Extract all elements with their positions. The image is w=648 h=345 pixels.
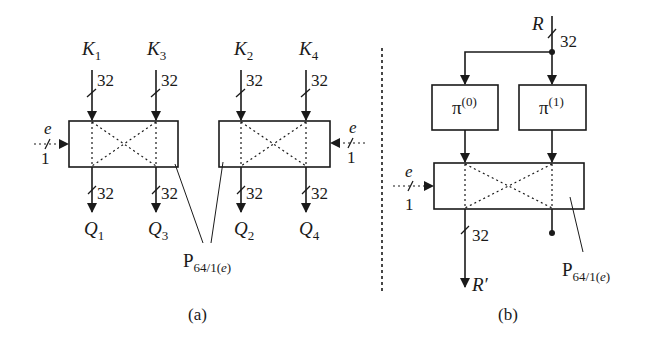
- bus-width-label: 32: [246, 184, 263, 203]
- output-label-q4: Q4: [299, 218, 320, 243]
- block-label-p64: P64/1(e): [562, 259, 610, 284]
- leader-line: [175, 164, 203, 243]
- output-label-q3: Q3: [148, 218, 168, 243]
- control-label-e: e: [405, 162, 413, 181]
- bus-width-label: 32: [560, 32, 577, 51]
- bus-width-label: 32: [472, 226, 489, 245]
- crossover-dotted-lines: [465, 164, 552, 208]
- permutation-block-right: K2 K4 32 32 e 1 32: [219, 38, 365, 243]
- bus-width-label: 32: [97, 184, 114, 203]
- bus-width-label: 32: [97, 71, 114, 90]
- perm-label-pi0: π(0): [452, 94, 477, 118]
- bus-width-label: 32: [311, 71, 328, 90]
- caption-b: (b): [498, 305, 518, 324]
- input-label-k4: K4: [298, 38, 319, 63]
- control-width-label: 1: [41, 149, 50, 168]
- input-label-k3: K3: [146, 38, 166, 63]
- control-width-label: 1: [405, 195, 414, 214]
- input-label-k1: K1: [81, 38, 101, 63]
- control-width-label: 1: [347, 148, 356, 167]
- panel-a: K1 K3 32 32 e 1 32: [34, 38, 365, 324]
- perm-label-pi1: π(1): [539, 94, 564, 118]
- bus-width-label: 32: [311, 184, 328, 203]
- diagram-canvas: K1 K3 32 32 e 1 32: [0, 0, 648, 345]
- branch-arrow-pi0: [465, 52, 552, 84]
- control-label-e: e: [44, 119, 52, 138]
- output-label-r-prime: R′: [471, 274, 489, 295]
- crossover-dotted-lines: [92, 122, 156, 166]
- output-label-q2: Q2: [234, 218, 254, 243]
- permutation-box: [434, 163, 584, 209]
- bus-width-label: 32: [246, 71, 263, 90]
- caption-a: (a): [188, 305, 207, 324]
- leader-line: [211, 162, 223, 243]
- input-label-r: R: [531, 13, 544, 34]
- block-label-p64: P64/1(e): [183, 250, 231, 275]
- control-label-e: e: [349, 118, 357, 137]
- panel-b: R 32 π(0) π(1) e 1 32 R′: [393, 13, 610, 324]
- permutation-box: [69, 121, 178, 167]
- permutation-block-left: K1 K3 32 32 e 1 32: [34, 38, 178, 243]
- bus-width-label: 32: [161, 184, 178, 203]
- input-label-k2: K2: [233, 38, 253, 63]
- output-label-q1: Q1: [84, 218, 104, 243]
- bus-width-label: 32: [161, 71, 178, 90]
- terminal-dot: [549, 230, 555, 236]
- crossover-dotted-lines: [241, 122, 306, 166]
- leader-line: [570, 197, 583, 252]
